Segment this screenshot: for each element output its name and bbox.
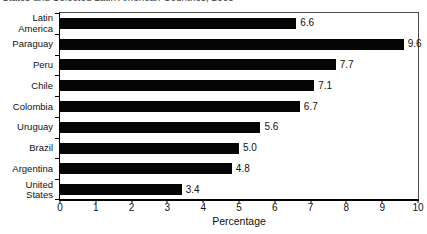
bar-paraguay xyxy=(60,39,404,50)
y-axis-tick xyxy=(55,34,60,35)
bar-brazil xyxy=(60,143,239,154)
x-axis-tick-label: 3 xyxy=(165,203,171,213)
bar-value-label: 6.7 xyxy=(304,102,318,112)
bar-value-label: 4.8 xyxy=(236,164,250,174)
x-axis-title: Percentage xyxy=(212,216,266,227)
x-axis-tick-label: 8 xyxy=(344,203,350,213)
bar-uruguay xyxy=(60,122,260,133)
bar-united-states xyxy=(60,184,182,195)
y-axis-tick xyxy=(55,138,60,139)
x-axis-tick-label: 7 xyxy=(308,203,314,213)
category-label-uruguay: Uruguay xyxy=(0,122,53,133)
x-axis-tick-label: 10 xyxy=(412,203,423,213)
figure-title-text: States and Selected Latin American Count… xyxy=(2,0,302,4)
bar-chart-figure: States and Selected Latin American Count… xyxy=(0,0,427,234)
x-axis-tick-label: 6 xyxy=(272,203,278,213)
x-axis-tick-label: 2 xyxy=(129,203,135,213)
x-axis-tick-label: 1 xyxy=(93,203,99,213)
category-label-argentina: Argentina xyxy=(0,164,53,175)
y-axis-tick xyxy=(55,75,60,76)
bar-latin-america xyxy=(60,18,296,29)
bar-value-label: 7.7 xyxy=(340,60,354,70)
y-axis-tick xyxy=(55,158,60,159)
figure-title-cropped: States and Selected Latin American Count… xyxy=(2,0,302,4)
x-axis-tick-label: 0 xyxy=(57,203,63,213)
y-axis-tick xyxy=(55,96,60,97)
category-label-latin-america: Latin America xyxy=(0,13,53,34)
y-axis-tick xyxy=(55,179,60,180)
bar-value-label: 7.1 xyxy=(318,81,332,91)
category-label-chile: Chile xyxy=(0,80,53,91)
category-label-paraguay: Paraguay xyxy=(0,39,53,50)
bar-argentina xyxy=(60,163,232,174)
category-label-peru: Peru xyxy=(0,60,53,71)
bar-colombia xyxy=(60,101,300,112)
category-label-colombia: Colombia xyxy=(0,101,53,112)
y-axis-tick xyxy=(55,13,60,14)
bar-value-label: 5.0 xyxy=(243,143,257,153)
bar-peru xyxy=(60,59,336,70)
bar-chile xyxy=(60,80,314,91)
y-axis-tick xyxy=(55,117,60,118)
category-label-united-states: United States xyxy=(0,179,53,200)
bar-value-label: 6.6 xyxy=(300,18,314,28)
x-axis-tick-label: 5 xyxy=(236,203,242,213)
bar-value-label: 5.6 xyxy=(264,122,278,132)
plot-area: Percentage 6.6Latin America9.6Paraguay7.… xyxy=(59,12,419,201)
x-axis-tick-label: 4 xyxy=(200,203,206,213)
x-axis-tick-label: 9 xyxy=(379,203,385,213)
bar-value-label: 3.4 xyxy=(186,185,200,195)
category-label-brazil: Brazil xyxy=(0,143,53,154)
y-axis-tick xyxy=(55,55,60,56)
bar-value-label: 9.6 xyxy=(408,39,422,49)
